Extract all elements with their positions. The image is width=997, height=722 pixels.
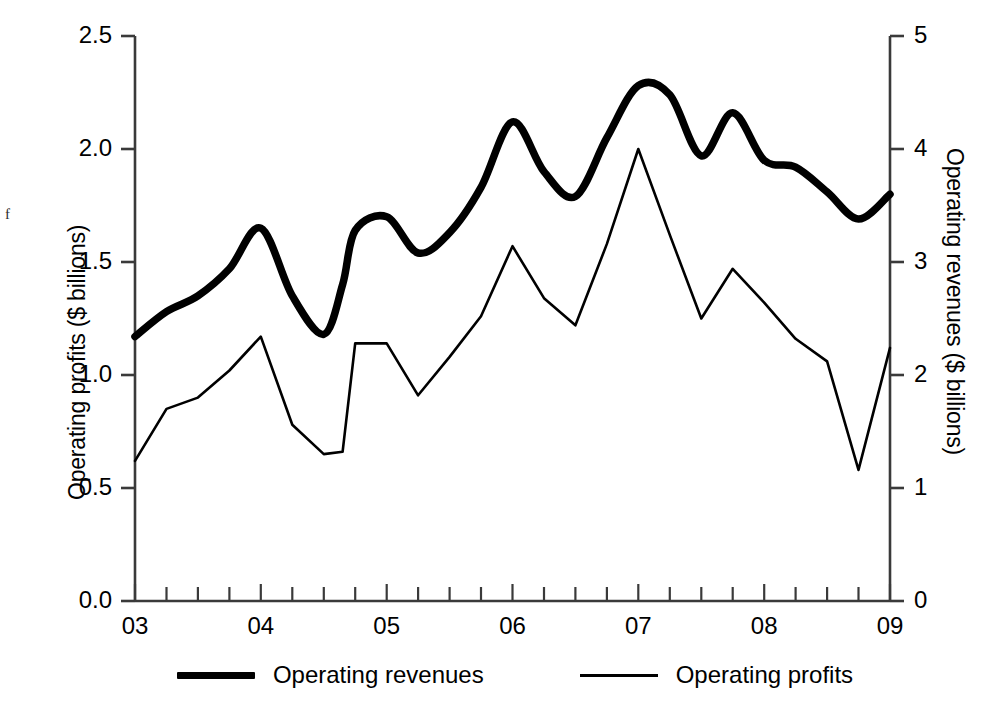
x-axis-tick-label: 09 xyxy=(860,612,920,640)
right-axis-tick-label: 5 xyxy=(914,21,954,49)
bottom-axis-ticks xyxy=(135,584,890,601)
stray-glyph-f: f xyxy=(5,206,10,223)
x-axis-tick-label: 08 xyxy=(734,612,794,640)
left-axis-tick-label: 0.0 xyxy=(42,586,112,614)
right-axis-tick-label: 2 xyxy=(914,360,954,388)
right-axis-tick-label: 4 xyxy=(914,134,954,162)
left-axis-ticks xyxy=(121,36,135,601)
right-axis-title: Operating revenues ($ billions) xyxy=(941,148,968,455)
legend-swatch-thin-line xyxy=(580,674,658,677)
left-axis-tick-label: 0.5 xyxy=(42,473,112,501)
series-line-operating-profits xyxy=(135,149,890,470)
right-axis-tick-label: 3 xyxy=(914,247,954,275)
legend-label-operating-profits: Operating profits xyxy=(676,661,853,689)
x-axis-tick-label: 07 xyxy=(608,612,668,640)
left-axis-tick-label: 1.5 xyxy=(42,247,112,275)
right-axis-tick-label: 0 xyxy=(914,586,954,614)
chart-figure: Operating profits ($ billions) Operating… xyxy=(0,0,997,722)
legend-label-operating-revenues: Operating revenues xyxy=(273,661,484,689)
series-line-operating-revenues xyxy=(135,82,890,336)
legend-entry-operating-revenues: Operating revenues xyxy=(177,661,484,689)
left-axis-tick-label: 2.0 xyxy=(42,134,112,162)
right-axis-ticks xyxy=(890,36,904,601)
left-axis-tick-label: 1.0 xyxy=(42,360,112,388)
left-axis-tick-label: 2.5 xyxy=(42,21,112,49)
x-axis-tick-label: 06 xyxy=(483,612,543,640)
chart-legend: Operating revenues Operating profits xyxy=(135,655,895,695)
x-axis-tick-label: 03 xyxy=(105,612,165,640)
legend-entry-operating-profits: Operating profits xyxy=(580,661,853,689)
x-axis-tick-label: 04 xyxy=(231,612,291,640)
x-axis-tick-label: 05 xyxy=(357,612,417,640)
legend-swatch-thick-line xyxy=(177,672,255,679)
right-axis-tick-label: 1 xyxy=(914,473,954,501)
